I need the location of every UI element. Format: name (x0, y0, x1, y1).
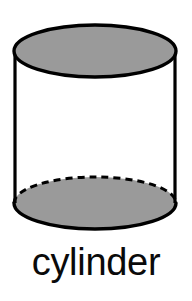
shape-caption-label: cylinder (0, 238, 192, 286)
cylinder-svg (0, 0, 192, 240)
cylinder-top-face (14, 25, 176, 77)
cylinder-figure-card: cylinder (0, 0, 192, 301)
cylinder-diagram (0, 0, 192, 240)
